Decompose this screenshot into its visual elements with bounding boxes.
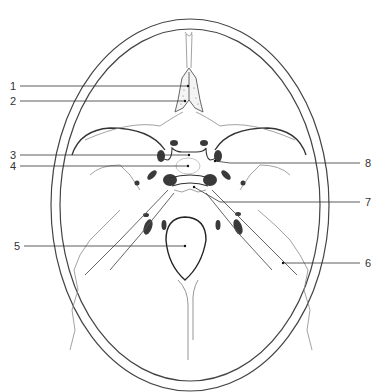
lesser-wings: [72, 128, 306, 155]
label-7: 7: [365, 197, 371, 208]
crista-galli: [185, 32, 192, 68]
target-dots: [184, 85, 284, 264]
label-8: 8: [365, 158, 371, 169]
label-5: 5: [14, 241, 20, 252]
skull-base-diagram: [0, 0, 382, 392]
petrous-ridges: [85, 190, 297, 275]
lambdoid-suture: [70, 210, 312, 350]
label-4: 4: [10, 161, 16, 172]
cribriform-plate: [175, 68, 203, 112]
label-6: 6: [365, 258, 371, 269]
occipital-crest: [178, 280, 198, 360]
label-2: 2: [10, 96, 16, 107]
label-1: 1: [10, 81, 16, 92]
anterior-fossa-border: [85, 112, 295, 190]
foramen-magnum: [166, 217, 206, 280]
